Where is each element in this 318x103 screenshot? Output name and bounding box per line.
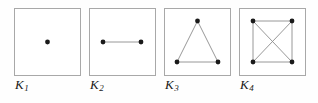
graph-drawing-k2	[89, 8, 156, 76]
panel-label-base-k1: K	[15, 77, 24, 92]
graph-drawing-k3	[164, 8, 231, 76]
graph-vertex	[45, 40, 50, 45]
panel-label-sub-k3: 3	[174, 83, 179, 93]
graph-vertex	[195, 19, 200, 24]
panel-label-sub-k1: 1	[24, 83, 29, 93]
graph-panel-k1: K1	[14, 8, 81, 76]
panel-label-base-k3: K	[165, 77, 174, 92]
panel-label-k1: K1	[15, 78, 28, 91]
graph-vertex	[290, 19, 295, 24]
graph-vertex	[290, 60, 295, 65]
graph-vertex	[251, 19, 256, 24]
panel-label-k4: K4	[240, 78, 253, 91]
panel-label-base-k2: K	[90, 77, 99, 92]
graph-panel-k3: K3	[164, 8, 231, 76]
graph-vertex	[216, 60, 221, 65]
complete-graphs-figure: K1 K2 K3 K4	[0, 0, 318, 103]
panel-label-base-k4: K	[240, 77, 249, 92]
graph-vertex	[139, 40, 144, 45]
graph-vertex	[101, 40, 106, 45]
panel-label-k3: K3	[165, 78, 178, 91]
graph-vertex	[251, 60, 256, 65]
graph-panel-k2: K2	[89, 8, 156, 76]
graph-edge	[198, 21, 219, 62]
graph-drawing-k1	[14, 8, 81, 76]
graph-edge	[177, 21, 198, 62]
graph-vertex	[175, 60, 180, 65]
panel-label-k2: K2	[90, 78, 103, 91]
graph-panel-k4: K4	[239, 8, 306, 76]
graph-drawing-k4	[239, 8, 306, 76]
panel-label-sub-k2: 2	[99, 83, 104, 93]
panel-label-sub-k4: 4	[249, 83, 254, 93]
